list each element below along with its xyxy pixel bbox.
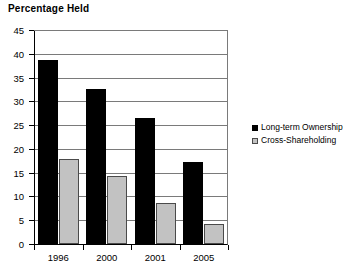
y-axis-tick-label: 10 [0,192,24,202]
legend-swatch [252,125,258,131]
chart-legend: Long-term OwnershipCross-Shareholding [252,121,343,147]
y-axis-tick-label: 5 [0,216,24,226]
y-axis-tick-label: 25 [0,121,24,131]
y-axis-tick-label: 20 [0,145,24,155]
legend-label: Cross-Shareholding [261,136,336,145]
y-axis-tick-label: 30 [0,97,24,107]
x-axis-tick-mark [83,245,84,250]
legend-label: Long-term Ownership [261,123,343,132]
x-axis-tick-label: 2001 [131,252,179,263]
y-axis-tick-label: 35 [0,74,24,84]
legend-swatch [252,138,258,144]
x-axis-tick-mark [180,245,181,250]
plot-area [34,31,228,245]
x-axis-tick-mark [131,245,132,250]
x-axis-tick-label: 1996 [34,252,82,263]
x-axis-tick-mark [228,245,229,250]
y-axis-tick-label: 45 [0,26,24,36]
y-axis-tick-label: 15 [0,169,24,179]
x-axis-tick-label: 2000 [83,252,131,263]
legend-item: Long-term Ownership [252,121,343,134]
chart-title: Percentage Held [8,3,89,14]
x-axis-tick-label: 2005 [180,252,228,263]
x-axis-tick-mark [34,245,35,250]
legend-item: Cross-Shareholding [252,134,343,147]
y-axis-tick-label: 0 [0,240,24,250]
y-axis-tick-label: 40 [0,50,24,60]
plot-frame [34,31,228,245]
